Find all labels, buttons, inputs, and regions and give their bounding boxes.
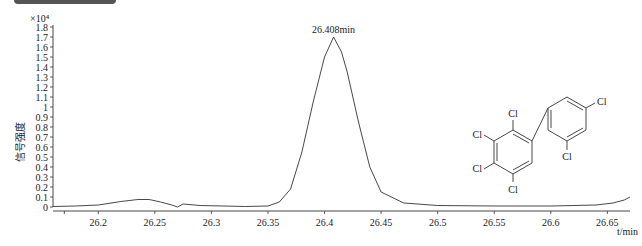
y-tick-label: 1.2	[36, 82, 49, 93]
y-tick-label: 0	[43, 202, 48, 213]
x-axis-ticks: 26.226.2526.326.3526.426.4526.526.5526.6…	[64, 211, 618, 228]
y-tick-label: 0.5	[36, 152, 49, 163]
y-tick-label: 0.1	[36, 192, 49, 203]
y-tick-label: 0.9	[36, 112, 49, 123]
y-tick-label: 1.4	[36, 62, 49, 73]
x-axis-label: t/min	[617, 226, 638, 237]
y-tick-label: 1.6	[36, 42, 49, 53]
y-tick-label: 1.5	[36, 52, 49, 63]
y-axis-ticks: 00.10.20.30.40.50.60.70.80.911.11.21.31.…	[36, 22, 54, 213]
y-axis-label: 信号强度	[14, 122, 26, 162]
x-tick-label: 26.3	[203, 217, 221, 228]
svg-text:Cl: Cl	[508, 108, 518, 119]
x-tick-label: 26.25	[144, 217, 167, 228]
svg-text:Cl: Cl	[508, 184, 518, 195]
chromatogram-line	[53, 37, 630, 207]
y-tick-label: 1	[43, 102, 48, 113]
peak-annotation: 26.408min	[312, 24, 355, 35]
y-tick-label: 0.3	[36, 172, 49, 183]
y-tick-label: 0.6	[36, 142, 49, 153]
pcb-structure-diagram	[484, 97, 595, 182]
y-tick-label: 1.7	[36, 32, 49, 43]
x-tick-label: 26.2	[90, 217, 108, 228]
x-tick-label: 26.35	[257, 217, 280, 228]
x-tick-label: 26.5	[429, 217, 447, 228]
x-tick-label: 26.45	[370, 217, 393, 228]
x-tick-label: 26.4	[316, 217, 334, 228]
chromatogram-chart: 00.10.20.30.40.50.60.70.80.911.11.21.31.…	[0, 0, 642, 246]
x-tick-label: 26.6	[542, 217, 560, 228]
chlorine-labels: Cl Cl Cl Cl Cl Cl	[473, 96, 607, 195]
svg-text:Cl: Cl	[562, 151, 572, 162]
y-tick-label: 1.3	[36, 72, 49, 83]
x-tick-label: 26.55	[483, 217, 506, 228]
svg-text:Cl: Cl	[473, 163, 483, 174]
y-tick-label: 0.8	[36, 122, 49, 133]
y-multiplier-label: ×10⁴	[30, 13, 50, 24]
y-tick-label: 0.2	[36, 182, 49, 193]
svg-text:Cl: Cl	[473, 129, 483, 140]
y-tick-label: 0.4	[36, 162, 49, 173]
x-tick-label: 26.65	[596, 217, 619, 228]
y-tick-label: 0.7	[36, 132, 49, 143]
y-tick-label: 1.1	[36, 92, 49, 103]
svg-text:Cl: Cl	[597, 96, 607, 107]
